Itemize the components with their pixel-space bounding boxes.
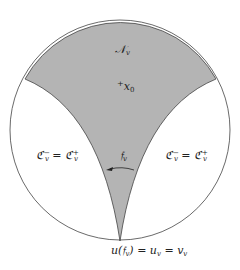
label-arrow-f-v: 𝔣v xyxy=(120,150,127,163)
label-right-region: ℭ−v = ℭ+v xyxy=(165,150,207,163)
label-point-x0: +x0 xyxy=(117,80,134,94)
label-left-region: ℭ−v = ℭ+v xyxy=(36,150,78,163)
label-bottom-cusp: u(𝔣v) = uv = vv xyxy=(111,245,187,258)
disk-diagram xyxy=(0,0,240,270)
label-region-n-v: 𝒩v xyxy=(115,44,130,57)
